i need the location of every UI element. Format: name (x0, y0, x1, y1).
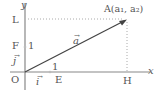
point-f-label: F (12, 41, 19, 51)
vector-j-label: → j (13, 56, 16, 66)
vector-a-line (25, 21, 124, 72)
y-unit-label: 1 (28, 41, 34, 51)
vector-i-label: → i (36, 77, 39, 87)
point-a-label: A(a₁, a₂) (104, 4, 143, 14)
x-unit-label: 1 (52, 62, 58, 72)
origin-label: O (11, 75, 19, 85)
vector-a-arrowhead (119, 20, 127, 26)
point-h-label: H (123, 76, 132, 86)
point-e-label: E (55, 75, 62, 85)
x-axis-label: x (148, 66, 154, 76)
vector-arrow-icon: → (14, 51, 20, 61)
tick-f (24, 46, 27, 49)
tick-e (49, 71, 52, 74)
point-l-label: L (12, 15, 19, 25)
vector-arrow-icon: → (74, 31, 80, 41)
coordinate-plane (0, 0, 162, 97)
vector-a-label: → a (73, 36, 79, 46)
y-axis-label: y (21, 0, 27, 10)
vector-arrow-icon: → (37, 72, 43, 82)
